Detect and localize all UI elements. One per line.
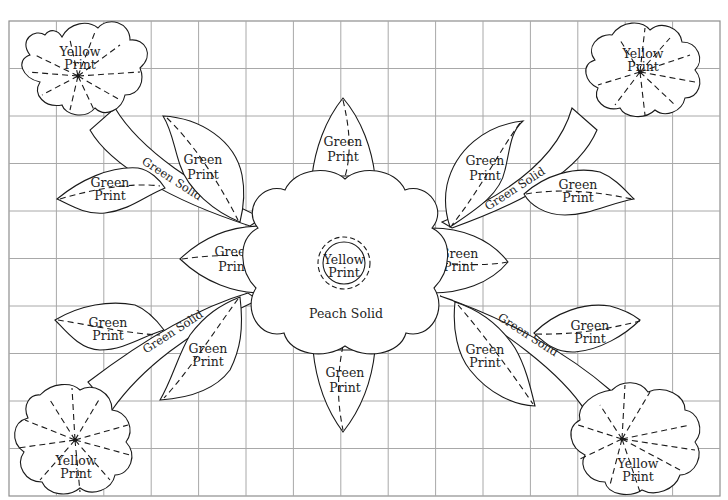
leaf-top-center: Green Print bbox=[312, 98, 375, 180]
svg-text:Print: Print bbox=[443, 259, 474, 274]
svg-text:Green: Green bbox=[326, 365, 365, 380]
svg-text:Print: Print bbox=[187, 167, 218, 182]
corner-flower-top-left: Yellow Print bbox=[22, 22, 148, 115]
svg-text:Print: Print bbox=[328, 265, 359, 280]
svg-text:Print: Print bbox=[562, 190, 593, 205]
svg-text:Print: Print bbox=[94, 188, 125, 203]
svg-text:Print: Print bbox=[469, 168, 500, 183]
corner-flower-top-right: Yellow Print bbox=[586, 23, 700, 117]
flower-center-dot bbox=[620, 437, 624, 441]
leaf-top-left-lower: Green Print bbox=[57, 168, 165, 213]
svg-text:Print: Print bbox=[574, 331, 605, 346]
svg-text:Print: Print bbox=[622, 469, 653, 484]
svg-text:Print: Print bbox=[92, 328, 123, 343]
svg-text:Green: Green bbox=[184, 152, 223, 167]
svg-text:Print: Print bbox=[60, 466, 91, 481]
svg-text:Green: Green bbox=[466, 153, 505, 168]
flower-center-dot bbox=[76, 74, 80, 78]
center-flower: Yellow Print Peach Solid bbox=[243, 170, 448, 353]
svg-text:Print: Print bbox=[192, 354, 223, 369]
svg-text:Print: Print bbox=[327, 149, 358, 164]
corner-flower-bottom-right: Yellow Print bbox=[571, 383, 700, 495]
svg-text:Print: Print bbox=[64, 57, 95, 72]
svg-text:Print: Print bbox=[627, 59, 658, 74]
svg-text:Peach Solid: Peach Solid bbox=[309, 306, 383, 321]
svg-text:Print: Print bbox=[469, 355, 500, 370]
svg-text:Green: Green bbox=[324, 134, 363, 149]
leaf-bottom-right-upper: Green Print bbox=[534, 305, 640, 352]
svg-text:Print: Print bbox=[329, 380, 360, 395]
flower-center-dot bbox=[73, 438, 77, 442]
leaf-bottom-center: Green Print bbox=[313, 346, 375, 432]
quilt-pattern-diagram: Green Solid Green Solid Green Solid Gree… bbox=[0, 0, 728, 500]
